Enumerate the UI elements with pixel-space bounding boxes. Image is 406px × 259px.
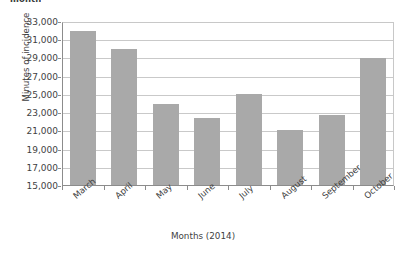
y-axis-tick-mark (58, 77, 61, 78)
y-axis-tick-labels: 33,00031,00029,00027,00025,00023,00021,0… (0, 0, 58, 259)
x-axis-title: Months (2014) (0, 231, 406, 241)
y-axis-tick-label: 33,000 (27, 17, 59, 27)
y-axis-tick-mark (58, 22, 61, 23)
y-axis-tick-label: 31,000 (27, 35, 59, 45)
y-axis-tick-mark (58, 131, 61, 132)
x-axis-tick-mark (228, 186, 229, 190)
plot-area (62, 22, 394, 186)
y-axis-tick-label: 21,000 (27, 126, 59, 136)
bar-slot (353, 22, 395, 186)
bar-slot (187, 22, 229, 186)
x-axis-tick-mark (104, 186, 105, 190)
bar-slot (228, 22, 270, 186)
bar-slot (145, 22, 187, 186)
y-axis-tick-mark (58, 150, 61, 151)
bar-may (153, 104, 179, 186)
bar-slot (311, 22, 353, 186)
x-axis-tick-mark (394, 186, 395, 190)
x-axis-tick-mark (62, 186, 63, 190)
y-axis-tick-label: 25,000 (27, 90, 59, 100)
x-axis-tick-labels: MarchAprilMayJuneJulyAugustSeptemberOcto… (62, 191, 394, 225)
x-axis-tick-mark (270, 186, 271, 190)
y-axis-tick-mark (58, 95, 61, 96)
bar-slot (270, 22, 312, 186)
y-axis-tick-mark (58, 168, 61, 169)
y-axis-tick-label: 17,000 (27, 163, 59, 173)
x-axis-tick-mark (145, 186, 146, 190)
bar-july (236, 94, 262, 186)
y-axis-tick-label: 23,000 (27, 108, 59, 118)
y-axis-tick-mark (58, 186, 61, 187)
bar-march (70, 31, 96, 186)
bar-october (360, 58, 386, 186)
bar-june (194, 118, 220, 186)
x-axis-tick-mark (353, 186, 354, 190)
bar-slot (62, 22, 104, 186)
y-axis-tick-mark (58, 58, 61, 59)
bar-april (111, 49, 137, 186)
y-axis-tick-mark (58, 40, 61, 41)
y-axis-tick-label: 19,000 (27, 145, 59, 155)
y-axis-tick-label: 27,000 (27, 72, 59, 82)
x-axis-tick-mark (187, 186, 188, 190)
y-axis-tick-label: 29,000 (27, 53, 59, 63)
bar-slot (104, 22, 146, 186)
y-axis-tick-mark (58, 113, 61, 114)
y-axis-tick-label: 15,000 (27, 181, 59, 191)
x-axis-tick-mark (311, 186, 312, 190)
bar-chart-figure: Minutes of incidence 33,00031,00029,0002… (0, 0, 406, 259)
